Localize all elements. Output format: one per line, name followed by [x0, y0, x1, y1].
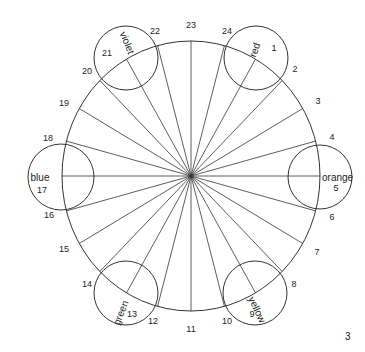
page-number: 3 [345, 331, 351, 342]
spoke-line [158, 176, 191, 306]
segment-number: 6 [329, 212, 334, 222]
spoke-line [191, 176, 316, 211]
segment-number: 4 [329, 132, 334, 142]
segment-number: 16 [44, 210, 54, 220]
segment-number: 1 [271, 43, 276, 53]
spoke-line [191, 176, 282, 272]
color-circle-blue: blue [28, 144, 94, 210]
segment-number: 22 [150, 26, 160, 36]
segment-number: 19 [59, 98, 69, 108]
spoke-line [100, 81, 191, 177]
segment-number: 23 [186, 20, 196, 30]
spoke-line [191, 46, 224, 176]
segment-number: 10 [222, 316, 232, 326]
color-circle-violet: violet [94, 26, 158, 90]
radial-spokes [62, 41, 320, 311]
color-circle-red: red [224, 26, 288, 90]
segment-number: 18 [43, 133, 53, 143]
spoke-line [66, 176, 191, 211]
segment-number: 12 [148, 316, 158, 326]
segment-number: 11 [186, 324, 195, 334]
spoke-line [191, 109, 303, 177]
segment-number: 14 [82, 279, 92, 289]
spoke-line [191, 81, 282, 177]
spoke-line [79, 176, 191, 244]
spoke-line [100, 176, 191, 272]
segment-number: 15 [59, 244, 69, 254]
spoke-line [191, 176, 303, 244]
spoke-line [191, 59, 256, 176]
spoke-line [191, 176, 224, 306]
spoke-line [191, 176, 256, 293]
color-label-red: red [247, 41, 262, 58]
segment-number: 13 [127, 309, 137, 319]
color-label-orange: orange [322, 172, 354, 183]
segment-number: 17 [37, 185, 47, 195]
segment-number: 20 [82, 66, 92, 76]
segment-number: 2 [292, 64, 297, 74]
segment-number: 7 [314, 247, 319, 257]
color-circle-orange: orange [288, 145, 354, 209]
segment-number: 21 [102, 48, 112, 58]
spoke-line [127, 59, 192, 176]
segment-number: 5 [333, 183, 338, 193]
segment-number: 9 [249, 309, 254, 319]
segment-number: 3 [315, 96, 320, 106]
color-label-violet: violet [118, 30, 137, 56]
spoke-line [158, 46, 191, 176]
segment-number: 24 [222, 26, 232, 36]
spoke-line [191, 141, 316, 176]
spoke-line [79, 109, 191, 177]
segment-number: 8 [291, 279, 296, 289]
color-label-blue: blue [31, 172, 50, 183]
spoke-line [127, 176, 192, 293]
color-wheel-diagram: redorangeyellowgreenblueviolet 123456789… [0, 0, 365, 352]
spoke-line [66, 141, 191, 176]
